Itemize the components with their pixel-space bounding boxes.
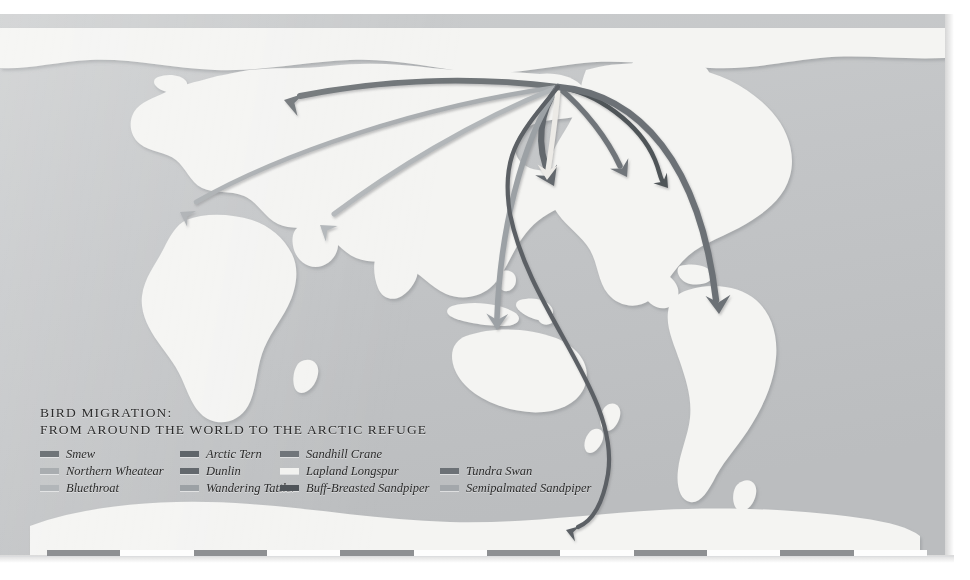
- legend-item[interactable]: Semipalmated Sandpiper: [440, 479, 610, 496]
- legend-swatch-icon: [440, 485, 459, 491]
- legend-item[interactable]: Bluethroat: [40, 479, 180, 496]
- legend-label: Semipalmated Sandpiper: [466, 481, 591, 495]
- legend-swatch-icon: [40, 451, 59, 457]
- legend-row: SmewArctic TernSandhill Crane: [40, 445, 640, 462]
- legend-label: Buff-Breasted Sandpiper: [306, 481, 429, 495]
- legend-label: Tundra Swan: [466, 464, 532, 478]
- legend-swatch-icon: [180, 485, 199, 491]
- legend-label: Bluethroat: [66, 481, 119, 495]
- legend-item-empty: [440, 445, 610, 462]
- legend-swatch-icon: [280, 468, 299, 474]
- legend-swatch-icon: [180, 468, 199, 474]
- legend-swatch-icon: [40, 468, 59, 474]
- legend-label: Arctic Tern: [206, 447, 262, 461]
- legend-item[interactable]: Smew: [40, 445, 180, 462]
- legend-label: Smew: [66, 447, 95, 461]
- infographic-page: BIRD MIGRATION: FROM AROUND THE WORLD TO…: [0, 0, 970, 580]
- legend-row: BluethroatWandering TattlerBuff-Breasted…: [40, 479, 640, 496]
- legend-title-line-2: FROM AROUND THE WORLD TO THE ARCTIC REFU…: [40, 421, 640, 438]
- legend-item[interactable]: Wandering Tattler: [180, 479, 280, 496]
- legend-label: Sandhill Crane: [306, 447, 382, 461]
- legend-swatch-icon: [280, 485, 299, 491]
- legend-item[interactable]: Northern Wheatear: [40, 462, 180, 479]
- legend-swatch-icon: [440, 451, 459, 457]
- legend-label: Lapland Longspur: [306, 464, 399, 478]
- scale-bar-baseline: [0, 556, 954, 557]
- legend-swatch-icon: [40, 485, 59, 491]
- plate-edge-shadow-right: [945, 14, 954, 555]
- legend: BIRD MIGRATION: FROM AROUND THE WORLD TO…: [40, 404, 640, 496]
- legend-item[interactable]: Lapland Longspur: [280, 462, 440, 479]
- legend-row: Northern WheatearDunlinLapland LongspurT…: [40, 462, 640, 479]
- legend-rows: SmewArctic TernSandhill CraneNorthern Wh…: [40, 445, 640, 496]
- legend-item[interactable]: Arctic Tern: [180, 445, 280, 462]
- legend-swatch-icon: [180, 451, 199, 457]
- legend-item[interactable]: Sandhill Crane: [280, 445, 440, 462]
- legend-label: Dunlin: [206, 464, 241, 478]
- legend-label: Northern Wheatear: [66, 464, 164, 478]
- legend-item[interactable]: Dunlin: [180, 462, 280, 479]
- legend-swatch-icon: [440, 468, 459, 474]
- legend-item[interactable]: Buff-Breasted Sandpiper: [280, 479, 440, 496]
- legend-item[interactable]: Tundra Swan: [440, 462, 610, 479]
- legend-title-line-1: BIRD MIGRATION:: [40, 404, 640, 421]
- legend-swatch-icon: [280, 451, 299, 457]
